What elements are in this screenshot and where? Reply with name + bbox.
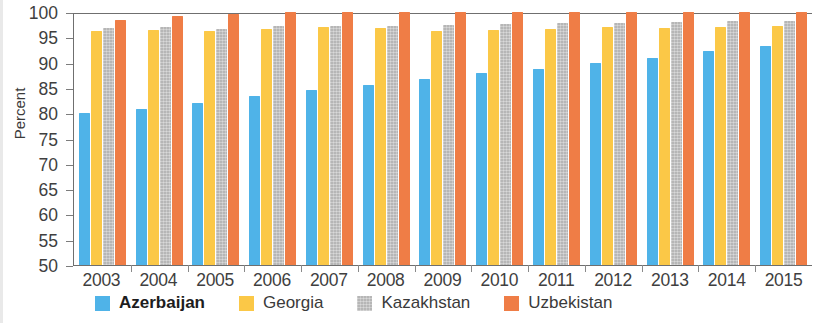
- bar-uzbekistan-2009: [455, 12, 466, 265]
- legend-label: Georgia: [263, 293, 323, 313]
- bar-georgia-2008: [375, 28, 386, 265]
- y-axis-tick-mark: [66, 89, 73, 90]
- bar-kazakhstan-2004: [160, 27, 171, 265]
- bar-azerbaijan-2007: [306, 90, 317, 265]
- x-axis-label: 2015: [755, 270, 812, 291]
- y-axis-tick-label: 75: [22, 133, 66, 147]
- bar-group: [358, 14, 415, 265]
- bar-azerbaijan-2006: [249, 96, 260, 265]
- y-axis-tick-mark: [66, 165, 73, 166]
- bar-uzbekistan-2015: [796, 12, 807, 265]
- bar-chart: Percent 10095908580757065605550 20032004…: [0, 0, 819, 323]
- bar-azerbaijan-2003: [79, 113, 90, 265]
- y-axis-tick-label: 100: [22, 6, 66, 20]
- bar-group: [528, 14, 585, 265]
- bar-georgia-2007: [318, 27, 329, 265]
- bar-kazakhstan-2014: [727, 21, 738, 265]
- y-axis-tick-mark: [66, 13, 73, 14]
- x-axis-label: 2009: [414, 270, 471, 291]
- x-axis-labels: 2003200420052006200720082009201020112012…: [73, 270, 812, 291]
- bar-group: [301, 14, 358, 265]
- bar-group: [74, 14, 131, 265]
- bar-uzbekistan-2003: [115, 20, 126, 265]
- bar-kazakhstan-2010: [500, 24, 511, 265]
- bar-azerbaijan-2010: [476, 73, 487, 265]
- bar-kazakhstan-2006: [273, 26, 284, 265]
- page-edge-artifact: [0, 0, 3, 323]
- legend-label: Kazakhstan: [381, 293, 470, 313]
- y-axis-ticks: 10095908580757065605550: [22, 6, 66, 274]
- x-axis-label: 2005: [187, 270, 244, 291]
- bar-kazakhstan-2012: [614, 23, 625, 265]
- legend-item-uzbekistan[interactable]: Uzbekistan: [504, 293, 612, 313]
- bar-group: [188, 14, 245, 265]
- bar-georgia-2012: [602, 27, 613, 265]
- y-axis-tick-mark: [66, 215, 73, 216]
- bar-azerbaijan-2015: [760, 46, 771, 265]
- bar-georgia-2010: [488, 30, 499, 265]
- bar-georgia-2011: [545, 29, 556, 265]
- legend-swatch-icon: [95, 296, 110, 311]
- y-axis-tick-label: 65: [22, 183, 66, 197]
- bar-azerbaijan-2014: [703, 51, 714, 265]
- bar-georgia-2003: [91, 31, 102, 265]
- chart-legend: AzerbaijanGeorgiaKazakhstanUzbekistan: [95, 293, 612, 313]
- x-axis-label: 2006: [244, 270, 301, 291]
- legend-swatch-icon: [357, 296, 372, 311]
- x-axis-label: 2013: [641, 270, 698, 291]
- bar-kazakhstan-2003: [103, 28, 114, 265]
- y-axis-tick-label: 80: [22, 107, 66, 121]
- bar-georgia-2005: [204, 31, 215, 265]
- bar-uzbekistan-2005: [228, 14, 239, 265]
- bar-uzbekistan-2010: [512, 12, 523, 265]
- x-axis-label: 2012: [585, 270, 642, 291]
- y-axis-tick-mark: [66, 114, 73, 115]
- y-axis-tick-mark: [66, 266, 73, 267]
- bar-azerbaijan-2005: [192, 103, 203, 265]
- bar-group: [471, 14, 528, 265]
- bar-group: [244, 14, 301, 265]
- bar-georgia-2006: [261, 29, 272, 265]
- y-axis-tick-mark: [66, 241, 73, 242]
- y-axis-tick-label: 60: [22, 208, 66, 222]
- x-axis-label: 2003: [73, 270, 130, 291]
- bar-azerbaijan-2004: [136, 109, 147, 265]
- legend-item-kazakhstan[interactable]: Kazakhstan: [357, 293, 470, 313]
- x-axis-label: 2008: [357, 270, 414, 291]
- legend-swatch-icon: [239, 296, 254, 311]
- legend-label: Azerbaijan: [119, 293, 205, 313]
- bar-kazakhstan-2007: [330, 26, 341, 265]
- bar-groups: [74, 14, 812, 265]
- legend-item-georgia[interactable]: Georgia: [239, 293, 323, 313]
- x-axis-label: 2007: [300, 270, 357, 291]
- plot-area-wrapper: 10095908580757065605550: [22, 6, 812, 274]
- y-axis-tick-mark: [66, 64, 73, 65]
- bar-georgia-2004: [148, 30, 159, 265]
- bar-kazakhstan-2008: [387, 26, 398, 265]
- bar-uzbekistan-2006: [285, 12, 296, 265]
- bar-kazakhstan-2005: [216, 29, 227, 265]
- bar-azerbaijan-2012: [590, 63, 601, 265]
- bar-kazakhstan-2011: [557, 23, 568, 265]
- legend-swatch-icon: [504, 296, 519, 311]
- bar-azerbaijan-2008: [363, 85, 374, 265]
- y-axis-tick-label: 85: [22, 82, 66, 96]
- x-axis-label: 2011: [528, 270, 585, 291]
- bar-uzbekistan-2007: [342, 12, 353, 265]
- x-axis-label: 2014: [698, 270, 755, 291]
- legend-item-azerbaijan[interactable]: Azerbaijan: [95, 293, 205, 313]
- bar-group: [755, 14, 812, 265]
- x-axis-label: 2004: [130, 270, 187, 291]
- y-axis-tick-label: 55: [22, 234, 66, 248]
- y-axis-tick-label: 90: [22, 57, 66, 71]
- bar-group: [698, 14, 755, 265]
- bar-uzbekistan-2013: [683, 12, 694, 265]
- y-axis-tick-mark: [66, 38, 73, 39]
- bar-group: [642, 14, 699, 265]
- bar-georgia-2009: [431, 31, 442, 265]
- bar-uzbekistan-2008: [399, 12, 410, 265]
- y-axis-tick-label: 50: [22, 259, 66, 273]
- bar-uzbekistan-2004: [172, 16, 183, 265]
- x-axis-label: 2010: [471, 270, 528, 291]
- y-axis-tick-label: 70: [22, 158, 66, 172]
